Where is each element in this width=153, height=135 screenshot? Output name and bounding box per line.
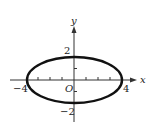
y-axis-arrow-icon: [72, 26, 77, 33]
y-neg-label: −2: [60, 106, 75, 117]
x-pos-label: 4: [123, 83, 129, 94]
y-axis-label: y: [70, 15, 77, 26]
x-neg-label: −4: [13, 83, 28, 94]
ellipse-chart: x y O −4 4 2 −2: [0, 0, 153, 135]
y-pos-label: 2: [64, 45, 70, 56]
x-axis-arrow-icon: [130, 78, 137, 83]
origin-label: O: [65, 83, 73, 94]
x-axis-label: x: [140, 74, 146, 85]
